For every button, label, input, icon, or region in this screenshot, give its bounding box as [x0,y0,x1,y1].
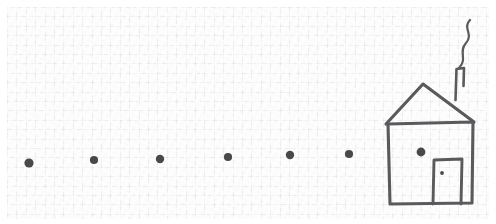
chimney [456,68,465,100]
path-dot [90,156,98,164]
roof [386,84,474,124]
path-dot [286,151,294,159]
door [433,159,462,204]
sketch-image [0,0,496,224]
smoke-squiggle [459,20,470,68]
pencil-drawing [0,0,496,224]
path-dot [224,153,232,161]
path-dot [24,158,33,167]
house [386,20,474,204]
path-dot [345,150,353,158]
doorknob-dot [440,171,444,175]
dotted-path [24,150,353,168]
window-dot [417,148,426,157]
path-dot [156,155,164,163]
